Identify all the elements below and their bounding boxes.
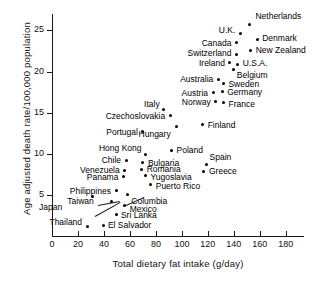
x-axis-line (52, 236, 304, 237)
data-point (202, 170, 205, 173)
x-tick-mark (78, 231, 79, 236)
data-point (144, 153, 147, 156)
point-label: Germany (227, 88, 262, 97)
y-tick-mark (47, 30, 52, 31)
x-tick-label: 40 (93, 240, 115, 249)
data-point (115, 189, 118, 192)
point-label: Norway (182, 98, 211, 107)
scatter-plot-area: 510152025 020406080100120140160180 Nethe… (0, 0, 317, 288)
y-tick-mark (47, 154, 52, 155)
point-label: Yugoslavia (151, 173, 192, 182)
x-tick-label: 60 (119, 240, 141, 249)
data-point (222, 82, 225, 85)
y-tick-mark (47, 195, 52, 196)
point-label: Panama (87, 173, 119, 182)
data-point (169, 114, 172, 117)
data-point (214, 100, 217, 103)
data-point (221, 90, 224, 93)
point-label: New Zealand (256, 46, 306, 55)
data-point (232, 68, 235, 71)
y-axis-title: Age adjusted death rate/100,000 populati… (21, 1, 32, 237)
point-label: Chile (102, 156, 121, 165)
point-label: Taiwan (67, 197, 93, 206)
point-label: Japan (39, 202, 62, 211)
x-tick-label: 80 (145, 240, 167, 249)
y-tick-mark (47, 113, 52, 114)
x-tick-label: 120 (197, 240, 219, 249)
x-tick-mark (208, 231, 209, 236)
x-tick-mark (234, 231, 235, 236)
data-point (228, 61, 231, 64)
data-point (205, 163, 208, 166)
point-label: Netherlands (255, 11, 301, 20)
x-tick-label: 160 (249, 240, 271, 249)
data-point (217, 78, 220, 81)
point-label: Czechoslovakia (106, 112, 166, 121)
point-label: Philippines (70, 187, 111, 196)
data-point (122, 175, 125, 178)
data-point (236, 63, 239, 66)
data-point (141, 161, 144, 164)
point-label: Australia (180, 75, 213, 84)
y-tick-mark (47, 72, 52, 73)
data-point (222, 101, 225, 104)
data-point (249, 49, 252, 52)
point-label: Hong Kong (99, 143, 142, 152)
data-point (125, 159, 128, 162)
x-tick-mark (156, 231, 157, 236)
data-point (126, 193, 129, 196)
x-tick-mark (182, 231, 183, 236)
data-point (248, 23, 251, 26)
point-label: Italy (144, 100, 160, 109)
data-point (102, 224, 105, 227)
point-label: Finland (208, 121, 236, 130)
x-tick-label: 180 (275, 240, 297, 249)
data-point (123, 204, 126, 207)
x-tick-mark (104, 231, 105, 236)
x-tick-label: 100 (171, 240, 193, 249)
data-point (123, 169, 126, 172)
x-tick-label: 0 (41, 240, 63, 249)
x-tick-mark (260, 231, 261, 236)
point-label: Canada (202, 39, 232, 48)
x-tick-mark (286, 231, 287, 236)
point-label: Denmark (262, 34, 296, 43)
data-point (235, 53, 238, 56)
point-label: Poland (177, 146, 203, 155)
point-label: U.K. (219, 25, 236, 34)
point-label: Portugal (106, 127, 138, 136)
data-point (115, 213, 118, 216)
point-label: Puerto Rico (156, 182, 200, 191)
data-point (86, 225, 89, 228)
data-point (140, 168, 143, 171)
point-label: Switzerland (188, 49, 232, 58)
data-point (144, 174, 147, 177)
point-label: Hungary (139, 129, 171, 138)
data-point (235, 41, 238, 44)
data-point (170, 149, 173, 152)
point-label: El Salvador (108, 221, 151, 230)
data-point (175, 125, 178, 128)
point-label: U.S.A. (243, 59, 268, 68)
data-point (201, 123, 204, 126)
data-point (239, 32, 242, 35)
point-label: Spain (210, 153, 232, 162)
point-label: Ireland (199, 58, 225, 67)
data-point (212, 91, 215, 94)
point-label: Greece (209, 167, 237, 176)
point-label: Thailand (49, 218, 82, 227)
chart-figure: 510152025 020406080100120140160180 Nethe… (0, 0, 317, 288)
x-tick-mark (130, 231, 131, 236)
x-tick-label: 140 (223, 240, 245, 249)
data-point (256, 38, 259, 41)
x-tick-label: 20 (67, 240, 89, 249)
data-point (149, 183, 152, 186)
x-axis-title: Total dietary fat intake (g/day) (52, 258, 304, 269)
point-label: France (228, 100, 254, 109)
point-label: Sri Lanka (121, 210, 157, 219)
